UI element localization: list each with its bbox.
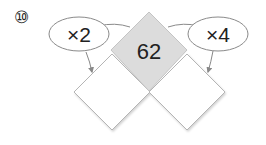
right-operator: ×4 xyxy=(206,23,230,46)
left-arrow-icon xyxy=(86,52,92,72)
left-operator: ×2 xyxy=(67,23,91,46)
right-arrow-icon xyxy=(208,51,213,72)
diagram: ⑩ 62 ×2 ×4 xyxy=(0,0,266,145)
top-value: 62 xyxy=(137,39,161,64)
problem-number: ⑩ xyxy=(14,8,29,27)
